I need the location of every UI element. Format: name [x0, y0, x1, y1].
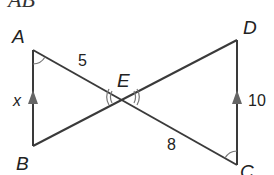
parallel-arrow-icon-dc	[232, 90, 242, 104]
geometry-diagram: AB A B C D E 5 x 10 8	[0, 0, 274, 175]
label-d: D	[243, 17, 257, 38]
label-ab-length: x	[12, 92, 22, 109]
segments	[33, 40, 237, 165]
title-text: AB	[6, 0, 35, 12]
label-ae-length: 5	[78, 52, 87, 69]
label-ec-length: 8	[167, 136, 176, 153]
angle-arc-c	[225, 151, 237, 158]
label-c: C	[240, 161, 254, 175]
label-dc-length: 10	[248, 92, 266, 109]
diagram-svg: AB A B C D E 5 x 10 8	[0, 0, 274, 175]
angle-arcs-e	[107, 89, 139, 105]
label-a: A	[11, 26, 25, 47]
label-b: B	[16, 153, 29, 174]
angle-arc-e-left-inner	[111, 91, 112, 103]
parallel-arrow-icon-ab	[28, 90, 38, 104]
segment-ac	[33, 50, 237, 165]
angle-arc-a	[33, 57, 45, 64]
angle-arc-e-right-inner	[134, 91, 135, 103]
label-e: E	[117, 70, 130, 91]
angle-arc-e-left-outer	[107, 89, 109, 105]
